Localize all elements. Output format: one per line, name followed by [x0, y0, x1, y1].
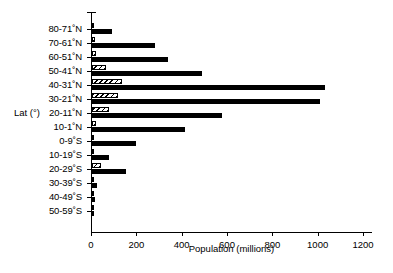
y-axis-title: Lat (°) — [14, 106, 40, 120]
y-axis-label: 40-49˚S — [49, 190, 82, 204]
bar-group — [92, 92, 373, 106]
y-tick — [87, 169, 91, 170]
y-tick — [87, 141, 91, 142]
x-tick — [318, 232, 319, 236]
y-axis-label: 10-1˚N — [54, 120, 82, 134]
bar-group — [92, 134, 373, 148]
bar-hatched — [92, 163, 101, 168]
bar-group — [92, 50, 373, 64]
y-axis-top-cap — [87, 12, 96, 13]
y-tick — [87, 183, 91, 184]
bar-hatched — [92, 107, 109, 112]
y-axis-label: 50-41˚N — [48, 64, 82, 78]
bar-group — [92, 176, 373, 190]
bar-hatched — [92, 79, 122, 84]
bar-group — [92, 36, 373, 50]
y-axis-label: 0-9˚S — [59, 134, 82, 148]
x-tick — [136, 232, 137, 236]
bar-group — [92, 204, 373, 218]
bar-hatched — [92, 23, 94, 28]
bar-hatched — [92, 93, 118, 98]
bar-group — [92, 120, 373, 134]
y-tick — [87, 85, 91, 86]
x-tick — [91, 232, 92, 236]
y-axis-label: 80-71˚N — [48, 22, 82, 36]
bar-group — [92, 64, 373, 78]
x-tick — [227, 232, 228, 236]
y-tick — [87, 211, 91, 212]
bar-group — [92, 190, 373, 204]
bar-solid — [92, 211, 94, 216]
x-axis-line — [91, 232, 372, 233]
x-axis-title: Population (millions) — [91, 243, 372, 254]
y-axis-label: 30-21˚N — [48, 92, 82, 106]
bar-group — [92, 106, 373, 120]
bar-solid — [92, 99, 320, 104]
bar-solid — [92, 141, 136, 146]
y-tick — [87, 113, 91, 114]
y-axis-category-labels: 80-71˚N70-61˚N60-51˚N50-41˚N40-31˚N30-21… — [0, 22, 86, 218]
bar-solid — [92, 197, 95, 202]
y-axis-label: 70-61˚N — [48, 36, 82, 50]
y-axis-label: 40-31˚N — [48, 78, 82, 92]
y-tick — [87, 99, 91, 100]
y-tick — [87, 197, 91, 198]
bar-hatched — [92, 65, 106, 70]
bar-hatched — [92, 205, 94, 210]
bar-group — [92, 78, 373, 92]
bar-group — [92, 148, 373, 162]
x-tick — [363, 232, 364, 236]
bar-solid — [92, 29, 112, 34]
y-axis-label: 10-19˚S — [49, 148, 82, 162]
y-axis-label: 50-59˚S — [49, 204, 82, 218]
bar-hatched — [92, 191, 94, 196]
bar-solid — [92, 43, 155, 48]
bar-group — [92, 162, 373, 176]
bar-solid — [92, 85, 325, 90]
bar-hatched — [92, 149, 94, 154]
plot-area: 020040060080010001200 — [91, 12, 372, 233]
y-tick — [87, 127, 91, 128]
y-axis-label: 20-29˚S — [49, 162, 82, 176]
y-tick — [87, 29, 91, 30]
y-tick — [87, 155, 91, 156]
bar-solid — [92, 183, 97, 188]
bar-solid — [92, 71, 202, 76]
y-axis-label: 60-51˚N — [48, 50, 82, 64]
bar-solid — [92, 169, 126, 174]
bar-hatched — [92, 135, 94, 140]
bar-hatched — [92, 177, 94, 182]
x-tick — [182, 232, 183, 236]
y-axis-label: 20-11˚N — [49, 106, 82, 120]
bar-solid — [92, 155, 109, 160]
bar-hatched — [92, 121, 96, 126]
y-tick — [87, 71, 91, 72]
x-tick — [272, 232, 273, 236]
bar-hatched — [92, 37, 95, 42]
bar-hatched — [92, 51, 96, 56]
bar-solid — [92, 57, 168, 62]
bar-group — [92, 22, 373, 36]
y-tick — [87, 43, 91, 44]
bar-solid — [92, 113, 222, 118]
population-by-latitude-chart: 80-71˚N70-61˚N60-51˚N50-41˚N40-31˚N30-21… — [0, 0, 393, 273]
y-axis-label: 30-39˚S — [49, 176, 82, 190]
bar-solid — [92, 127, 185, 132]
y-tick — [87, 57, 91, 58]
